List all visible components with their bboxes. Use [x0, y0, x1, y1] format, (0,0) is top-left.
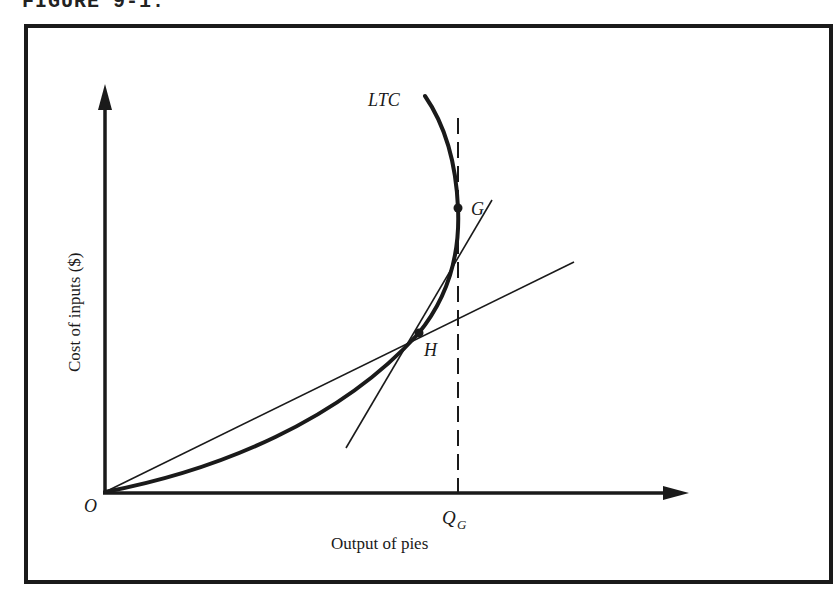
tangent-line-at-h: [346, 200, 492, 448]
y-axis-arrow-icon: [98, 84, 112, 110]
ltc-label: LTC: [367, 90, 401, 110]
x-axis-label: Output of pies: [331, 534, 428, 553]
point-g-marker: [454, 204, 463, 213]
qg-label-main: Q: [442, 507, 456, 528]
qg-label-sub: G: [457, 517, 467, 532]
qg-tick-label: Q G: [442, 507, 467, 532]
point-h-label: H: [423, 340, 438, 360]
x-axis-arrow-icon: [663, 486, 689, 500]
ray-from-origin: [105, 262, 574, 492]
y-axis: [98, 84, 112, 494]
x-axis: [103, 486, 689, 500]
y-axis-label: Cost of inputs ($): [65, 253, 84, 372]
point-g-label: G: [471, 199, 484, 219]
ltc-curve: [105, 96, 458, 492]
figure-frame: [26, 26, 831, 582]
point-h-marker: [415, 329, 424, 338]
origin-label: O: [84, 496, 97, 516]
diagram-canvas: LTC G H O Q G Output of pies Cost of inp…: [0, 0, 838, 602]
